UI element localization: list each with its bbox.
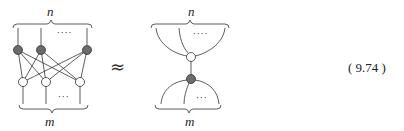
- left-top-dots: ····: [57, 28, 72, 38]
- right-top-dots: ····: [193, 29, 208, 39]
- diagram-canvas: n ···· ··· m ≈: [0, 0, 404, 131]
- right-top-label: n: [188, 4, 195, 19]
- gray-node: [37, 46, 46, 55]
- left-bottom-brace: [19, 105, 88, 113]
- left-bipartite-edges: [18, 50, 87, 82]
- gray-node: [187, 75, 196, 84]
- right-top-brace: [151, 20, 229, 28]
- equation-number: ( 9.74 ): [348, 60, 386, 75]
- left-bottom-label: m: [45, 114, 54, 129]
- right-bottom-brace: [155, 105, 221, 113]
- white-node: [76, 78, 85, 87]
- right-bottom-label: m: [185, 114, 194, 129]
- white-node: [19, 78, 28, 87]
- gray-node: [83, 46, 92, 55]
- left-top-brace: [13, 20, 92, 28]
- gray-node: [14, 46, 23, 55]
- right-diagram: n ···· ··· m: [151, 4, 229, 129]
- approx-symbol: ≈: [110, 56, 125, 77]
- left-top-label: n: [47, 4, 54, 19]
- white-node: [42, 78, 51, 87]
- left-diagram: n ···· ··· m: [13, 4, 92, 129]
- white-node: [187, 53, 196, 62]
- right-bottom-dots: ···: [196, 93, 208, 103]
- left-bottom-dots: ···: [58, 92, 70, 102]
